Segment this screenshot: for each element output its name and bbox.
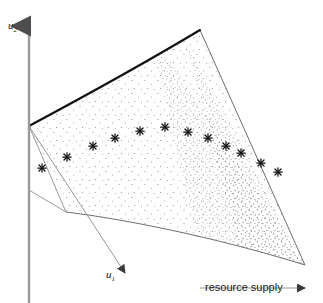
marker-asterisk xyxy=(204,134,212,142)
resource-supply-label: resource supply xyxy=(205,281,283,293)
u2-axis-label: u2 xyxy=(8,19,17,34)
surface-stipple xyxy=(20,25,320,275)
marker-asterisk xyxy=(111,134,119,142)
marker-asterisk xyxy=(237,149,245,157)
marker-asterisk xyxy=(63,153,71,161)
pareto-surface xyxy=(20,25,320,275)
u1-axis-label: u1 xyxy=(106,268,115,283)
u1-axis-label-subscript: 1 xyxy=(112,275,116,283)
u2-axis-label-subscript: 2 xyxy=(14,26,18,34)
marker-asterisk xyxy=(161,123,169,131)
surface-diagram xyxy=(0,0,323,303)
marker-asterisk xyxy=(274,168,282,176)
marker-asterisk xyxy=(136,127,144,135)
marker-asterisk xyxy=(184,128,192,136)
marker-asterisk xyxy=(222,142,230,150)
marker-asterisk xyxy=(38,164,46,172)
marker-asterisk xyxy=(89,142,97,150)
marker-asterisk xyxy=(257,159,265,167)
